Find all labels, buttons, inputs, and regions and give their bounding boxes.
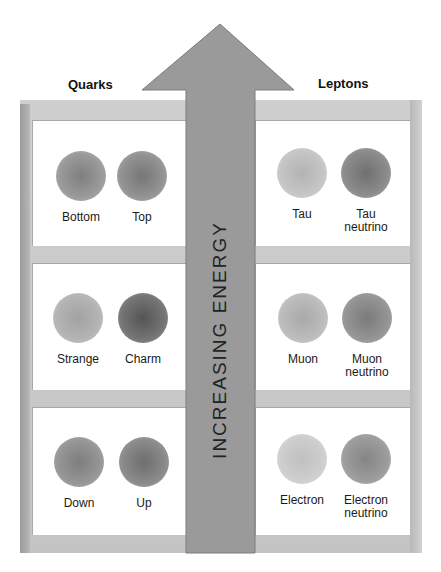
energy-arrow-label: INCREASING ENERGY xyxy=(209,221,231,459)
